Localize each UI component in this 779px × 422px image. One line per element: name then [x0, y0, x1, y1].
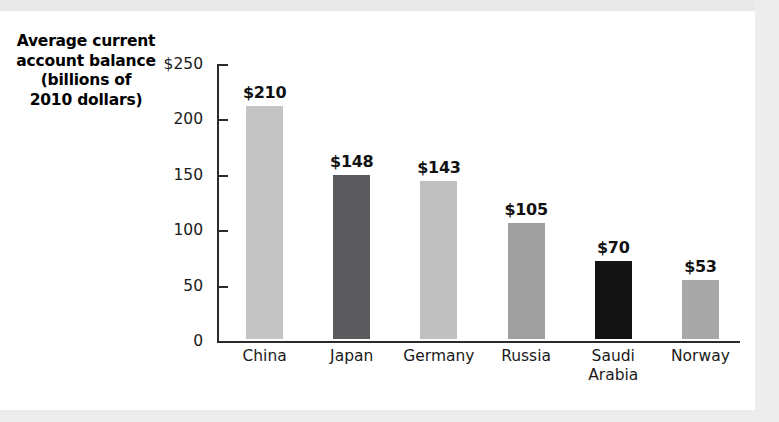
scan-band-bottom: [0, 410, 779, 422]
y-axis-tick-label: 200: [173, 110, 203, 128]
bar[interactable]: $143: [420, 181, 457, 339]
y-axis-tick-mark: [219, 341, 228, 343]
bar-value-label: $210: [243, 83, 286, 102]
x-axis-category-label: Germany: [395, 347, 482, 366]
y-axis-tick-mark: [219, 286, 228, 288]
plot-area: $250200150100500 $210$148$143$105$70$53 …: [217, 64, 740, 341]
bar-value-label: $143: [417, 158, 460, 177]
bar[interactable]: $70: [595, 261, 632, 339]
y-axis-tick-label: 50: [183, 277, 203, 295]
bar[interactable]: $105: [508, 223, 545, 339]
bar-value-label: $105: [504, 200, 547, 219]
bar[interactable]: $53: [682, 280, 719, 339]
bar-value-label: $148: [330, 152, 373, 171]
y-axis-line: [217, 64, 219, 342]
chart-axis-title-line: (billions of: [6, 71, 166, 91]
y-axis-tick-label: 150: [173, 166, 203, 184]
y-axis-tick-mark: [219, 64, 228, 66]
x-axis-line: [217, 341, 740, 343]
y-axis-tick-label: 0: [193, 332, 203, 350]
chart-axis-title-line: Average current: [6, 32, 166, 52]
x-axis-category-label: Japan: [308, 347, 395, 366]
x-axis-category-label: Saudi Arabia: [570, 347, 657, 385]
x-axis-category-label: Norway: [657, 347, 744, 366]
x-axis-category-label: Russia: [483, 347, 570, 366]
scan-band-top: [0, 0, 779, 11]
chart-axis-title-line: account balance: [6, 52, 166, 72]
y-axis-tick-label: $250: [164, 55, 203, 73]
bar-value-label: $70: [597, 238, 630, 257]
y-axis-tick-mark: [219, 230, 228, 232]
bar-chart-figure: Average currentaccount balance(billions …: [0, 11, 755, 410]
y-axis-tick-mark: [219, 175, 228, 177]
chart-axis-title-line: 2010 dollars): [6, 91, 166, 111]
chart-axis-title: Average currentaccount balance(billions …: [6, 32, 166, 110]
bar-value-label: $53: [684, 257, 717, 276]
x-axis-category-label: China: [221, 347, 308, 366]
bar[interactable]: $210: [246, 106, 283, 339]
y-axis-tick-label: 100: [173, 221, 203, 239]
bar[interactable]: $148: [333, 175, 370, 339]
scan-band-right: [755, 0, 779, 422]
y-axis-tick-mark: [219, 119, 228, 121]
